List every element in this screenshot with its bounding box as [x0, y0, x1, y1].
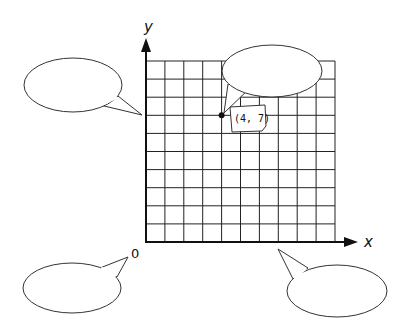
- x-axis-label: x: [363, 233, 373, 251]
- y-axis-label: y: [143, 18, 154, 36]
- speech-bubble-left: [24, 58, 142, 115]
- coordinate-diagram: y x 0 (4, 7): [0, 0, 404, 332]
- plotted-point: [219, 112, 225, 118]
- x-axis-arrow-icon: [344, 237, 358, 247]
- speech-bubble-top-right: [222, 45, 322, 113]
- speech-bubble-bottom-right: [278, 249, 387, 317]
- speech-bubble-bottom-left: [23, 257, 128, 313]
- origin-label: 0: [131, 246, 139, 261]
- y-axis-arrow-icon: [141, 38, 151, 52]
- point-label-tag: (4, 7): [230, 105, 270, 132]
- point-label: (4, 7): [234, 113, 270, 124]
